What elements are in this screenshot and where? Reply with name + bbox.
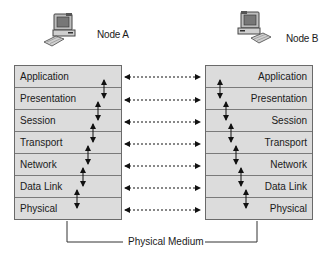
vertical-arrows-node-a	[77, 80, 104, 208]
vertical-arrows-node-b	[220, 80, 246, 208]
physical-medium-label: Physical Medium	[128, 236, 204, 247]
arrows-overlay	[0, 0, 326, 259]
peer-arrows	[125, 77, 200, 210]
